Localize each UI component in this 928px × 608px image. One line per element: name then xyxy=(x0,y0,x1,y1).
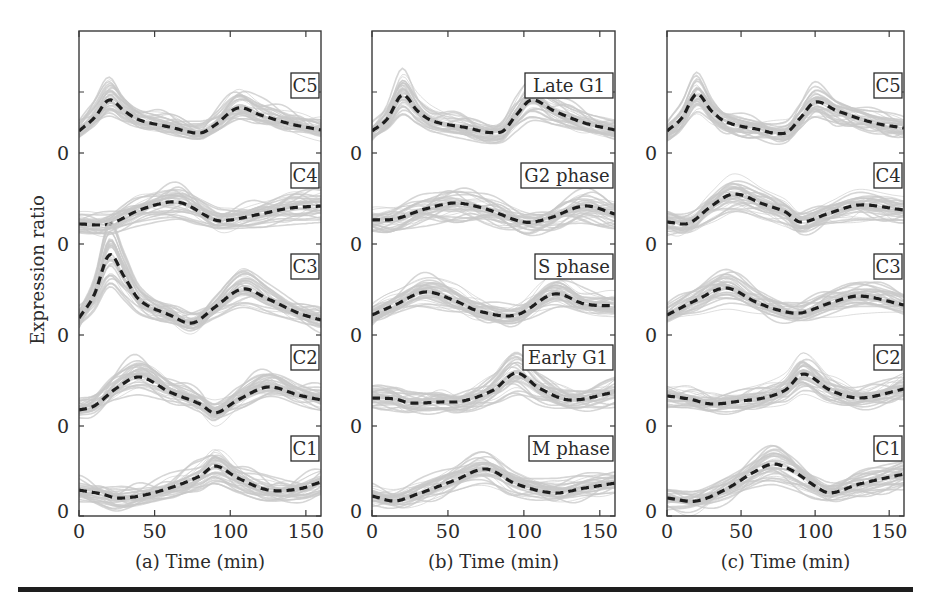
y-zero-label: 0 xyxy=(350,500,362,522)
series-label: S phase xyxy=(538,256,610,277)
plot-area xyxy=(667,72,904,516)
series-c2 xyxy=(667,353,904,415)
y-zero-label: 0 xyxy=(645,415,657,437)
series-label: C1 xyxy=(292,438,317,459)
y-zero-label: 0 xyxy=(57,142,69,164)
series-label: C3 xyxy=(875,256,900,277)
series-c1 xyxy=(667,446,904,516)
series-c5 xyxy=(667,72,904,144)
series-label: C5 xyxy=(875,75,900,96)
x-tick-label: 0 xyxy=(661,520,673,542)
x-axis-label: (a) Time (min) xyxy=(135,551,265,572)
panel-c: 05010015000000C5C4C3C2C1(c) Time (min) xyxy=(645,31,907,572)
series-c3 xyxy=(667,269,904,323)
y-zero-label: 0 xyxy=(350,415,362,437)
series-label: C2 xyxy=(292,347,317,368)
x-tick-label: 150 xyxy=(288,520,324,542)
y-zero-label: 0 xyxy=(645,233,657,255)
y-zero-label: 0 xyxy=(57,324,69,346)
x-tick-label: 100 xyxy=(797,520,833,542)
series-c1 xyxy=(79,450,321,511)
series-label: M phase xyxy=(532,438,610,459)
series-c5 xyxy=(79,77,321,141)
series-label: C5 xyxy=(292,75,317,96)
x-tick-label: 50 xyxy=(436,520,460,542)
x-tick-label: 100 xyxy=(506,520,542,542)
series-label: Late G1 xyxy=(533,75,605,96)
figure: 05010015000000C5C4C3C2C1(a) Time (min)05… xyxy=(0,0,928,608)
panel-a: 05010015000000C5C4C3C2C1(a) Time (min) xyxy=(57,31,324,572)
y-axis-label: Expression ratio xyxy=(27,195,48,345)
series-c3 xyxy=(79,222,321,334)
x-tick-label: 150 xyxy=(871,520,907,542)
y-zero-label: 0 xyxy=(57,415,69,437)
y-zero-label: 0 xyxy=(645,142,657,164)
series-label: C3 xyxy=(292,256,317,277)
x-tick-label: 150 xyxy=(582,520,618,542)
x-tick-label: 50 xyxy=(729,520,753,542)
y-zero-label: 0 xyxy=(57,500,69,522)
y-zero-label: 0 xyxy=(350,142,362,164)
series-label: C4 xyxy=(875,165,900,186)
series-label: G2 phase xyxy=(524,165,609,186)
y-zero-label: 0 xyxy=(350,324,362,346)
x-axis-label: (b) Time (min) xyxy=(428,551,559,572)
series-s-phase xyxy=(372,273,615,327)
series-label: Early G1 xyxy=(528,347,608,368)
series-g2-phase xyxy=(372,188,615,236)
series-label: C4 xyxy=(292,165,317,186)
y-zero-label: 0 xyxy=(350,233,362,255)
panel-b: 05010015000000Late G1G2 phaseS phaseEarl… xyxy=(350,31,618,572)
x-axis-label: (c) Time (min) xyxy=(721,551,851,572)
x-tick-label: 0 xyxy=(73,520,85,542)
series-label: C1 xyxy=(875,438,900,459)
series-c2 xyxy=(79,355,321,427)
bottom-rule-divider xyxy=(18,587,913,592)
y-zero-label: 0 xyxy=(645,500,657,522)
x-tick-label: 0 xyxy=(366,520,378,542)
chart-canvas: 05010015000000C5C4C3C2C1(a) Time (min)05… xyxy=(0,0,928,608)
x-tick-label: 50 xyxy=(143,520,167,542)
x-tick-label: 100 xyxy=(212,520,248,542)
series-label: C2 xyxy=(875,347,900,368)
plot-area xyxy=(79,77,321,511)
series-c4 xyxy=(667,174,904,236)
y-zero-label: 0 xyxy=(57,233,69,255)
y-zero-label: 0 xyxy=(645,324,657,346)
